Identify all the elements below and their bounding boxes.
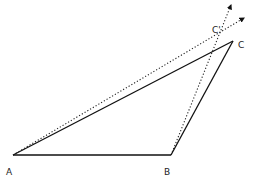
edge-bc (171, 41, 233, 155)
edge-ac (13, 41, 233, 155)
label-c-prime: C' (212, 25, 221, 35)
triangle-diagram: A B C C' (0, 0, 260, 178)
label-a: A (6, 167, 13, 177)
label-b: B (164, 167, 170, 177)
dotted-ray-from-a (13, 18, 244, 155)
label-c: C (238, 40, 244, 50)
dotted-ray-from-b (171, 5, 231, 155)
